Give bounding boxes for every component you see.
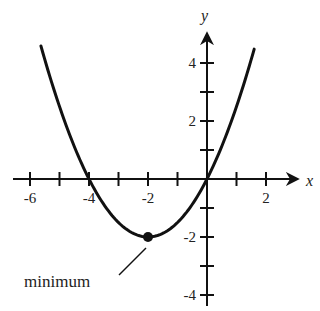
x-axis-label: x: [305, 172, 313, 189]
y-tick-label: 2: [189, 113, 197, 129]
x-tick-label: 2: [262, 190, 270, 206]
minimum-point: [143, 232, 153, 242]
x-tick-label: -6: [24, 190, 37, 206]
minimum-label: minimum: [24, 272, 90, 291]
axes: x y: [13, 7, 313, 306]
y-axis-label: y: [199, 7, 209, 25]
y-tick-label: -4: [184, 287, 197, 303]
parabola-curve: [41, 46, 254, 237]
y-tick-label: 4: [189, 55, 197, 71]
y-tick-label: -2: [184, 229, 197, 245]
minimum-leader-line: [119, 248, 146, 275]
x-tick-label: -2: [142, 190, 155, 206]
x-tick-label: -4: [83, 190, 96, 206]
parabola-chart: x y -6-4-2242-2-4 minimum: [0, 0, 320, 311]
